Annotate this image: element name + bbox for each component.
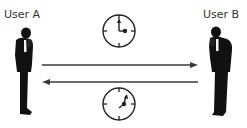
diagram-canvas bbox=[0, 0, 247, 128]
clock-icon bbox=[103, 15, 135, 47]
person-on-phone-icon bbox=[209, 27, 232, 117]
arrow-a-to-b bbox=[42, 62, 198, 68]
person-on-phone-icon bbox=[15, 28, 33, 116]
clock-icon bbox=[103, 88, 135, 120]
arrow-b-to-a bbox=[42, 79, 198, 85]
